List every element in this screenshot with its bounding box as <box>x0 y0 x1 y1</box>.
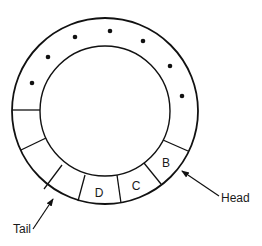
slot-label-c: C <box>132 179 141 193</box>
ellipsis-dot <box>73 35 78 40</box>
divider <box>163 140 188 151</box>
divider <box>144 163 161 184</box>
ellipsis-dot <box>141 39 146 44</box>
divider <box>117 175 121 203</box>
divider <box>44 165 62 189</box>
tail-label: Tail <box>13 222 31 236</box>
circular-buffer-diagram: B C D Head Tail <box>0 0 262 246</box>
ellipsis-dot <box>180 94 185 99</box>
empty-slots-ellipsis <box>30 29 185 99</box>
divider <box>78 175 85 201</box>
ellipsis-dot <box>30 81 35 86</box>
slot-label-b: B <box>162 156 170 170</box>
head-arrow <box>182 171 219 196</box>
ellipsis-dot <box>108 29 113 34</box>
tail-arrow <box>33 199 53 229</box>
ellipsis-dot <box>46 55 51 60</box>
ellipsis-dot <box>168 64 173 69</box>
inner-ring <box>40 46 170 176</box>
divider <box>21 138 46 150</box>
slot-label-d: D <box>95 186 104 200</box>
head-label: Head <box>221 191 250 205</box>
